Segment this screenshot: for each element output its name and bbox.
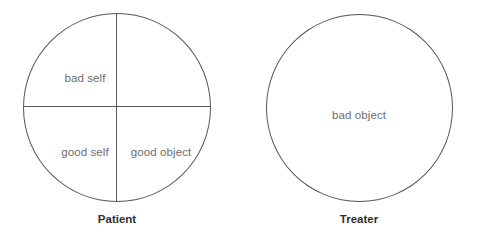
caption-treater: Treater [340, 212, 378, 226]
patient-vertical-divider [116, 13, 117, 202]
patient-horizontal-divider [23, 106, 211, 107]
quadrant-label-lower-left: good self [61, 146, 109, 159]
figure-treater: bad object Treater [241, 0, 483, 240]
quadrant-label-lower-right: good object [131, 146, 192, 159]
quadrant-label-upper-left: bad self [64, 72, 105, 85]
caption-patient: Patient [98, 212, 136, 226]
figure-patient: bad self good self good object Patient [0, 0, 242, 240]
treater-center-label: bad object [332, 109, 386, 122]
diagram-canvas: bad self good self good object Patient b… [0, 0, 483, 240]
